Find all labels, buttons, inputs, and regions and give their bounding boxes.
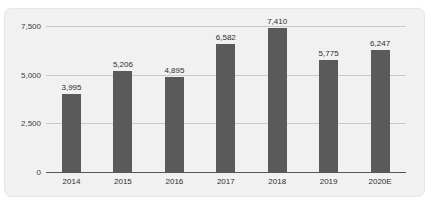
- x-axis-tick-labels: 2014 2015 2016 2017 2018 2019 2020E: [46, 0, 406, 205]
- x-tick-label-2016: 2016: [165, 177, 183, 186]
- x-tick-label-2019: 2019: [320, 177, 338, 186]
- y-axis-tick-labels: 7,500 5,000 2,500 0: [8, 0, 41, 205]
- bar-chart-figure: ···· 7,500 5,000 2,500 0 3,995 5,206 4,8…: [0, 0, 433, 205]
- watermark-text: ····: [414, 0, 427, 7]
- y-tick-label-2500: 2,500: [21, 119, 41, 128]
- x-tick-label-2015: 2015: [114, 177, 132, 186]
- x-tick-label-2020e: 2020E: [369, 177, 392, 186]
- x-tick-label-2018: 2018: [268, 177, 286, 186]
- y-tick-label-5000: 5,000: [21, 70, 41, 79]
- x-tick-label-2014: 2014: [63, 177, 81, 186]
- y-tick-label-7500: 7,500: [21, 22, 41, 31]
- y-tick-label-0: 0: [37, 168, 41, 177]
- x-tick-label-2017: 2017: [217, 177, 235, 186]
